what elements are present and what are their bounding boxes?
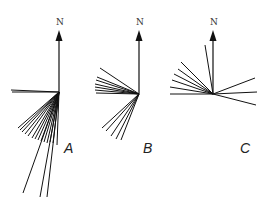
north-arrow-icon xyxy=(210,30,217,41)
north-arrow-icon xyxy=(56,30,63,41)
panel-label: A xyxy=(63,140,73,156)
orientation-ray xyxy=(178,69,213,94)
panel-c: NC xyxy=(170,17,257,156)
north-label: N xyxy=(56,17,64,27)
orientation-ray xyxy=(102,94,139,128)
north-label: N xyxy=(136,17,144,27)
orientation-ray xyxy=(213,92,257,94)
panel-a: NA xyxy=(11,17,73,197)
panel-label: C xyxy=(240,140,251,156)
orientation-ray xyxy=(213,94,256,105)
orientation-ray xyxy=(213,78,255,94)
panel-b: NB xyxy=(95,17,152,156)
orientation-ray xyxy=(172,80,213,94)
rose-diagram-figure: NANBNC xyxy=(0,0,268,205)
north-label: N xyxy=(210,17,218,27)
panel-label: B xyxy=(143,140,152,156)
north-arrow-icon xyxy=(136,30,143,41)
